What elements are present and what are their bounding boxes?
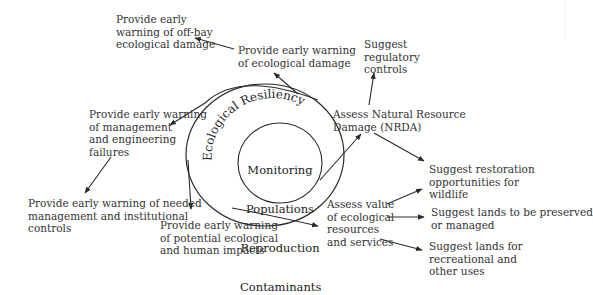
node-recreation: Suggest lands for recreational and other… <box>429 240 523 278</box>
node-eco-damage: Provide early warning of ecological dama… <box>238 44 356 69</box>
core-line-populations: Populations <box>240 203 320 216</box>
node-preserve: Suggest lands to be preserved or managed <box>431 206 593 231</box>
core-monitoring-list: Monitoring Populations Reproduction Cont… <box>240 138 320 295</box>
arrow-core-to-nrda <box>320 134 361 180</box>
node-regulatory: Suggest regulatory controls <box>364 38 420 76</box>
node-mgmt-eng: Provide early warning of management and … <box>89 108 207 158</box>
core-line-contaminants: Contaminants <box>240 281 320 294</box>
arrow-nrda-to-regulatory <box>369 73 374 105</box>
node-restoration: Suggest restoration opportunities for wi… <box>429 163 535 201</box>
node-assess-value: Assess value of ecological resources and… <box>327 198 394 248</box>
node-potential-impacts: Provide early warning of potential ecolo… <box>160 219 278 257</box>
core-line-monitoring: Monitoring <box>240 164 320 177</box>
arrow-nrda-to-restoration <box>374 133 424 161</box>
node-offbay: Provide early warning of off-bay ecologi… <box>116 13 215 51</box>
arrow-mgmt-to-needed <box>85 157 111 193</box>
node-nrda: Assess Natural Resource Damage (NRDA) <box>333 108 466 133</box>
